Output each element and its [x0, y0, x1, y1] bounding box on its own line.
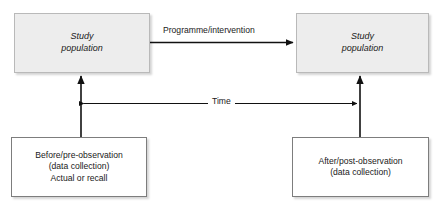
node-before-pre-observation: Before/pre-observation (data collection)… [11, 137, 147, 197]
edge-label-time: Time [208, 96, 235, 106]
diagram-canvas: Study population Study population Before… [0, 0, 447, 209]
node-label-line: Before/pre-observation [35, 150, 122, 161]
node-label-line: population [61, 43, 103, 55]
edge-label-programme-intervention: Programme/intervention [161, 25, 257, 35]
node-after-post-observation: After/post-observation (data collection) [292, 137, 429, 197]
node-label-line: After/post-observation [318, 156, 402, 167]
node-study-population-after: Study population [296, 13, 429, 73]
node-label-line: (data collection) [49, 161, 110, 172]
node-study-population-before: Study population [14, 13, 150, 73]
node-label-line: Study [351, 31, 374, 43]
node-label-line: Study [70, 31, 93, 43]
node-label-line: (data collection) [330, 167, 391, 178]
node-label-line: Actual or recall [51, 173, 108, 184]
node-label-line: population [342, 43, 384, 55]
